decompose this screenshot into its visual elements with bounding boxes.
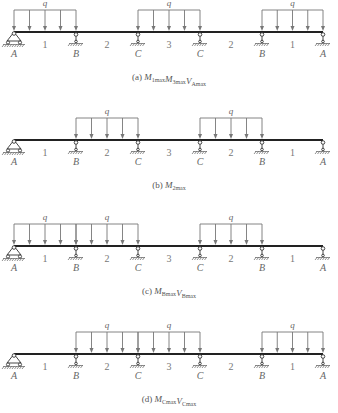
roller-support-icon [68, 33, 83, 46]
roller-support-icon [68, 247, 83, 260]
roller-support-icon [192, 33, 207, 46]
load-arrow-icon [245, 240, 249, 245]
support-label: A [319, 48, 327, 59]
load-arrow-icon [105, 240, 109, 245]
load-arrow-icon [260, 240, 264, 245]
load-arrow-icon [28, 26, 32, 31]
load-arrow-icon [59, 26, 63, 31]
load-arrow-icon [198, 134, 202, 139]
support-label: A [10, 262, 18, 273]
support-label: B [73, 370, 79, 381]
load-arrow-icon [167, 26, 171, 31]
load-arrow-icon [229, 134, 233, 139]
load-arrow-icon [306, 348, 310, 353]
load-arrow-icon [183, 26, 187, 31]
pin-support-icon [2, 32, 25, 47]
pin-support-icon [2, 354, 25, 369]
load-arrow-icon [198, 240, 202, 245]
load-arrow-icon [121, 240, 125, 245]
support-label: B [259, 48, 265, 59]
support-label: A [10, 156, 18, 167]
support-label: C [135, 48, 142, 59]
roller-support-icon [192, 247, 207, 260]
roller-support-icon [254, 355, 269, 368]
roller-support-icon [254, 141, 269, 154]
continuous-beam-load-cases-diagram: qqqABCCBA12321(a) M1maxM3maxVAmaxqqABCCB… [0, 0, 338, 413]
load-arrow-icon [121, 348, 125, 353]
load-arrow-icon [152, 348, 156, 353]
load-arrow-icon [260, 348, 264, 353]
support-label: C [197, 370, 204, 381]
load-arrow-icon [74, 134, 78, 139]
load-arrow-icon [74, 348, 78, 353]
beam-diagram-b: qqABCCBA12321(b) M2max [2, 106, 330, 191]
pin-support-icon [2, 140, 25, 155]
roller-support-icon [315, 247, 330, 260]
support-label: A [10, 370, 18, 381]
span-number: 2 [229, 253, 234, 264]
beam-diagram-a: qqqABCCBA12321(a) M1maxM3maxVAmax [2, 0, 330, 87]
roller-support-icon [192, 355, 207, 368]
support-label: A [10, 48, 18, 59]
load-arrow-icon [321, 348, 325, 353]
load-label: q [290, 0, 295, 8]
roller-support-icon [130, 141, 145, 154]
load-arrow-icon [105, 134, 109, 139]
span-number: 1 [43, 39, 48, 50]
load-arrow-icon [291, 26, 295, 31]
span-number: 2 [229, 147, 234, 158]
span-number: 3 [167, 361, 172, 372]
beam-diagram-d: qqqABCCBA12321(d) MCmaxVCmax [2, 320, 330, 407]
roller-support-icon [315, 141, 330, 154]
support-label: A [319, 156, 327, 167]
support-label: C [135, 156, 142, 167]
load-arrow-icon [12, 240, 16, 245]
support-label: B [73, 48, 79, 59]
load-arrow-icon [74, 26, 78, 31]
distributed-load-span-5: q [260, 0, 325, 31]
distributed-load-span-4: q [198, 212, 264, 245]
load-arrow-icon [121, 134, 125, 139]
load-arrow-icon [167, 348, 171, 353]
load-arrow-icon [260, 26, 264, 31]
load-arrow-icon [90, 134, 94, 139]
load-arrow-icon [12, 26, 16, 31]
span-number: 2 [229, 361, 234, 372]
load-label: q [43, 212, 48, 222]
span-number: 2 [229, 39, 234, 50]
distributed-load-span-4: q [198, 106, 264, 139]
load-arrow-icon [105, 348, 109, 353]
load-arrow-icon [28, 240, 32, 245]
support-label: B [259, 156, 265, 167]
load-arrow-icon [136, 26, 140, 31]
load-label: q [167, 320, 172, 330]
load-arrow-icon [90, 348, 94, 353]
span-number: 2 [105, 147, 110, 158]
load-arrow-icon [229, 240, 233, 245]
roller-support-icon [68, 355, 83, 368]
load-arrow-icon [245, 134, 249, 139]
support-label: B [259, 370, 265, 381]
load-arrow-icon [306, 26, 310, 31]
support-label: B [73, 156, 79, 167]
load-arrow-icon [43, 26, 47, 31]
load-arrow-icon [136, 134, 140, 139]
load-arrow-icon [198, 26, 202, 31]
span-number: 1 [43, 147, 48, 158]
span-number: 1 [290, 39, 295, 50]
load-arrow-icon [136, 240, 140, 245]
support-label: C [135, 370, 142, 381]
span-number: 2 [105, 253, 110, 264]
load-arrow-icon [275, 348, 279, 353]
load-arrow-icon [74, 240, 78, 245]
distributed-load-span-3: q [136, 0, 202, 31]
roller-support-icon [130, 247, 145, 260]
pin-support-icon [2, 246, 25, 261]
support-label: C [197, 48, 204, 59]
span-number: 1 [290, 361, 295, 372]
span-number: 3 [167, 253, 172, 264]
support-label: A [319, 262, 327, 273]
distributed-load-span-5: q [260, 320, 325, 353]
caption-d: (d) MCmaxVCmax [142, 394, 196, 407]
load-arrow-icon [183, 348, 187, 353]
